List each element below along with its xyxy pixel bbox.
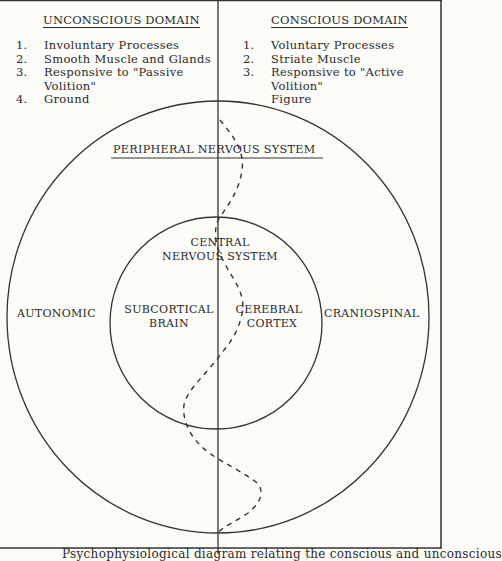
list-item: 2.Striate Muscle (243, 53, 404, 67)
list-item: 2.Smooth Muscle and Glands (16, 53, 211, 67)
conscious-domain-heading: CONSCIOUS DOMAIN (271, 13, 408, 27)
list-item: 4.Ground (16, 93, 211, 107)
subcortical-brain-label-line2: BRAIN (120, 317, 218, 331)
figure-caption: Psychophysiological diagram relating the… (62, 547, 502, 561)
central-nervous-system-label-line1: CENTRAL (150, 236, 290, 250)
unconscious-domain-heading: UNCONSCIOUS DOMAIN (43, 13, 200, 27)
list-item: Figure (243, 93, 404, 107)
conscious-domain-list: 1.Voluntary Processes 2.Striate Muscle 3… (243, 39, 404, 107)
peripheral-nervous-system-label: PERIPHERAL NERVOUS SYSTEM (113, 143, 315, 157)
list-item: 1.Involuntary Processes (16, 39, 211, 53)
list-item: 3.Responsive to "Active (243, 66, 404, 80)
cerebral-cortex-label-line2: CORTEX (228, 317, 316, 331)
list-item: 3.Responsive to "Passive (16, 66, 211, 80)
list-item: 1.Voluntary Processes (243, 39, 404, 53)
subcortical-brain-label-line1: SUBCORTICAL (120, 303, 218, 317)
central-nervous-system-label-line2: NERVOUS SYSTEM (150, 250, 290, 264)
list-item: Volition" (16, 80, 211, 94)
cerebral-cortex-label-line1: CEREBRAL (225, 303, 313, 317)
craniospinal-label: CRANIOSPINAL (324, 307, 419, 321)
unconscious-domain-list: 1.Involuntary Processes 2.Smooth Muscle … (16, 39, 211, 107)
list-item: Volition" (243, 80, 404, 94)
autonomic-label: AUTONOMIC (17, 307, 96, 321)
